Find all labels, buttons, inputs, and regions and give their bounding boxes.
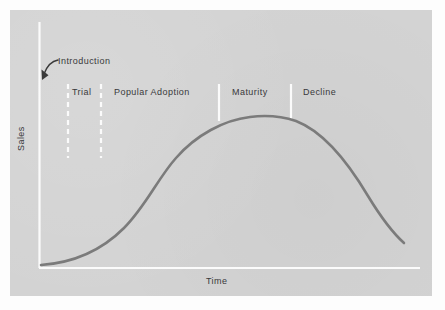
sales-curve [41, 116, 404, 265]
annotation-introduction-label: Introduction [58, 57, 110, 66]
y-axis-label: Sales [17, 126, 26, 151]
stage-label-maturity: Maturity [232, 88, 268, 97]
introduction-arrow-shaft [44, 60, 58, 74]
product-life-cycle-figure: Introduction Trial Popular Adoption Matu… [0, 0, 445, 310]
chart-plot-area [0, 0, 445, 310]
stage-label-trial: Trial [72, 88, 91, 97]
stage-label-decline: Decline [303, 88, 336, 97]
x-axis-label: Time [206, 277, 227, 286]
stage-label-popular-adoption: Popular Adoption [114, 88, 190, 97]
